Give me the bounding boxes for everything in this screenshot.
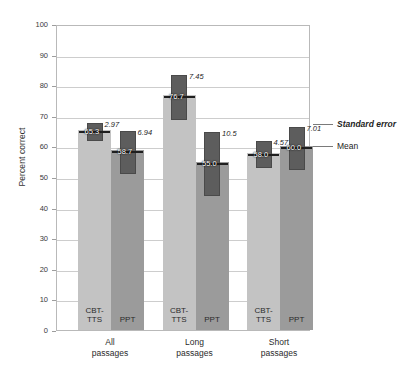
bar-series-label-line2: TTS bbox=[78, 316, 111, 324]
bar-series-label-line1: PPT bbox=[280, 316, 313, 324]
y-tick-label: 40 bbox=[22, 205, 48, 213]
y-tick-label: 70 bbox=[22, 113, 48, 121]
gridline bbox=[57, 57, 309, 58]
bar-series-label: PPT bbox=[111, 316, 144, 324]
y-tick-label: 90 bbox=[22, 52, 48, 60]
y-tick-label: 0 bbox=[22, 327, 48, 335]
mean-value-label: 65.3 bbox=[85, 128, 100, 136]
legend-mean-leader-line bbox=[313, 146, 333, 147]
y-tick-label: 10 bbox=[22, 296, 48, 304]
bar-chart: Percent correct 0102030405060708090100 C… bbox=[0, 0, 399, 375]
mean-value-label: 58.0 bbox=[254, 151, 269, 159]
bar-series-label: PPT bbox=[280, 316, 313, 324]
mean-value-label: 76.7 bbox=[169, 93, 184, 101]
x-group-label: Allpassages bbox=[69, 337, 151, 358]
legend-mean-label: Mean bbox=[337, 141, 358, 151]
bar-series-label: PPT bbox=[196, 316, 229, 324]
y-tick-mark bbox=[52, 331, 56, 332]
y-tick-label: 60 bbox=[22, 143, 48, 151]
x-group-label-line2: passages bbox=[154, 348, 236, 359]
bar-series-label: CBT-TTS bbox=[78, 307, 111, 324]
bar-series-label: CBT-TTS bbox=[247, 307, 280, 324]
bar-ppt-3: PPT bbox=[280, 146, 313, 330]
bar-series-label-line2: TTS bbox=[247, 316, 280, 324]
bar-cbt-tts-1: CBT-TTS bbox=[78, 130, 111, 330]
y-tick-label: 30 bbox=[22, 235, 48, 243]
bar-ppt-1: PPT bbox=[111, 150, 144, 330]
mean-value-label: 55.0 bbox=[202, 160, 217, 168]
x-group-label-line1: Short bbox=[238, 337, 320, 348]
x-group-label-line1: Long bbox=[154, 337, 236, 348]
standard-error-value-label: 6.94 bbox=[138, 129, 153, 137]
y-tick-label: 50 bbox=[22, 174, 48, 182]
mean-value-label: 60.0 bbox=[287, 144, 302, 152]
y-tick-label: 100 bbox=[22, 21, 48, 29]
bar-series-label-line2: TTS bbox=[163, 316, 196, 324]
legend-standard-error-leader-line bbox=[313, 124, 333, 125]
plot-area: CBT-TTS65.32.97PPT58.76.94CBT-TTS76.77.4… bbox=[56, 25, 310, 331]
x-group-label-line2: passages bbox=[238, 348, 320, 359]
x-group-label-line1: All bbox=[69, 337, 151, 348]
x-group-label: Longpassages bbox=[154, 337, 236, 358]
standard-error-value-label: 2.97 bbox=[105, 121, 120, 129]
bar-series-label-line1: PPT bbox=[111, 316, 144, 324]
mean-value-label: 58.7 bbox=[118, 148, 133, 156]
bar-series-label-line1: PPT bbox=[196, 316, 229, 324]
y-tick-label: 80 bbox=[22, 82, 48, 90]
x-group-label: Shortpassages bbox=[238, 337, 320, 358]
bar-cbt-tts-2: CBT-TTS bbox=[163, 95, 196, 330]
y-tick-label: 20 bbox=[22, 266, 48, 274]
standard-error-value-label: 7.01 bbox=[307, 125, 322, 133]
bar-cbt-tts-3: CBT-TTS bbox=[247, 153, 280, 330]
legend-standard-error-label: Standard error bbox=[337, 119, 396, 129]
standard-error-value-label: 7.45 bbox=[189, 73, 204, 81]
standard-error-value-label: 10.5 bbox=[222, 130, 237, 138]
bar-series-label: CBT-TTS bbox=[163, 307, 196, 324]
x-group-label-line2: passages bbox=[69, 348, 151, 359]
